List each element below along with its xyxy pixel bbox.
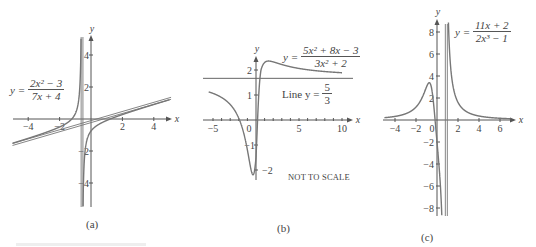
plot-a: xy−4−22442−2−4 [13, 23, 180, 207]
x-tick-label: 4 [151, 121, 156, 132]
x-tick-label: 0 [247, 123, 252, 134]
y-axis-label: y [89, 23, 95, 34]
y-tick-label: −6 [423, 181, 434, 192]
x-tick-label: 10 [337, 123, 347, 134]
y-tick-label: −2 [78, 146, 89, 157]
y-tick-label: −2 [262, 165, 273, 176]
x-tick-label: −2 [411, 123, 422, 134]
x-tick-label: 6 [498, 123, 503, 134]
x-axis-label: x [518, 114, 524, 125]
x-axis-arrow-icon [347, 118, 353, 123]
x-tick-label: 0 [430, 123, 435, 134]
x-tick-label: 4 [477, 123, 482, 134]
x-tick-label: 5 [297, 123, 302, 134]
plot-b: xy−5051021−1−2 [203, 43, 361, 180]
y-tick-label: 2 [84, 82, 89, 93]
y-tick-label: 6 [429, 49, 434, 60]
y-axis-label: y [254, 43, 260, 54]
y-tick-label: 4 [429, 71, 434, 82]
curve-left-branch [385, 83, 442, 216]
y-axis-arrow-icon [435, 19, 440, 25]
x-tick-label: 2 [456, 123, 461, 134]
y-axis-label: y [435, 6, 441, 17]
x-axis-label: x [174, 113, 180, 124]
y-tick-label: 2 [247, 65, 252, 76]
x-tick-label: −5 [208, 123, 219, 134]
curve-right-branch [83, 100, 169, 206]
y-tick-label: 1 [247, 90, 252, 101]
y-tick-label: −4 [423, 159, 434, 170]
plots-canvas: xy−4−22442−2−4 xy−5051021−1−2 xy−4−20246… [0, 0, 536, 247]
x-axis-arrow-icon [166, 117, 172, 122]
oblique-asymptote [13, 97, 172, 143]
y-tick-label: 8 [429, 27, 434, 38]
x-tick-label: −4 [23, 121, 34, 132]
y-axis-arrow-icon [254, 56, 259, 62]
plot-c: xy−4−202468642−2−4−6−8 [383, 6, 524, 216]
curve-right-branch [448, 23, 510, 119]
x-tick-label: 2 [120, 121, 125, 132]
x-tick-label: −4 [390, 123, 401, 134]
y-axis-arrow-icon [89, 35, 94, 41]
y-tick-label: −2 [423, 137, 434, 148]
x-axis-label: x [355, 114, 361, 125]
x-axis-arrow-icon [510, 118, 516, 123]
y-tick-label: 4 [84, 50, 89, 61]
y-tick-label: −8 [423, 203, 434, 214]
